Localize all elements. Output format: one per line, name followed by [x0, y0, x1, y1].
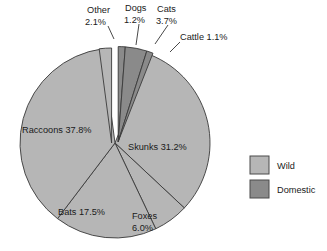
leader-line-cattle [170, 42, 180, 52]
label-cats-name: Cats [157, 4, 176, 14]
pie-chart-svg: Other 2.1% Dogs 1.2% Cats 3.7% Cattle 1.… [0, 0, 327, 251]
legend-swatch-wild [250, 156, 269, 174]
legend-swatch-domestic [250, 180, 269, 198]
label-other-name: Other [87, 5, 110, 15]
label-skunks: Skunks 31.2% [128, 142, 187, 152]
label-foxes-value: 6.0% [132, 223, 153, 233]
leader-line-other [108, 26, 114, 39]
label-cats-value: 3.7% [156, 16, 177, 26]
legend-label-wild: Wild [277, 161, 295, 171]
label-other-value: 2.1% [85, 17, 106, 27]
label-foxes-name: Foxes [132, 211, 157, 221]
chart-legend: Wild Domestic [250, 156, 316, 198]
legend-item-wild[interactable]: Wild [250, 156, 295, 174]
label-raccoons: Raccoons 37.8% [22, 125, 91, 135]
pie-chart-figure: Other 2.1% Dogs 1.2% Cats 3.7% Cattle 1.… [0, 0, 327, 251]
label-bats: Bats 17.5% [58, 207, 105, 217]
label-dogs-value: 1.2% [124, 15, 145, 25]
legend-item-domestic[interactable]: Domestic [250, 180, 316, 198]
label-dogs-name: Dogs [125, 3, 147, 13]
legend-label-domestic: Domestic [277, 185, 316, 195]
label-cattle: Cattle 1.1% [180, 32, 228, 42]
leader-line-cats [155, 25, 168, 44]
leader-line-dogs [136, 24, 139, 45]
